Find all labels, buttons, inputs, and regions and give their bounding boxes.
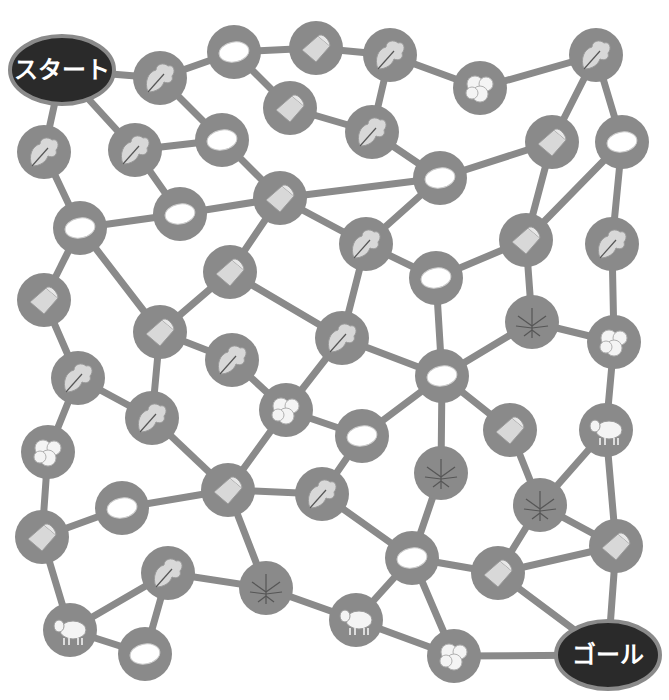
maze-node-leaf[interactable] [363,28,417,82]
maze-node-leaf[interactable] [345,105,399,159]
maze-node-cloth[interactable] [483,403,537,457]
maze-node-cocoon[interactable] [385,531,439,585]
maze-node-leaf[interactable] [51,351,105,405]
maze-node-sheep[interactable] [579,403,633,457]
maze-node-sheep[interactable] [43,603,97,657]
maze-node-hemp[interactable] [414,446,468,500]
maze-node-leaf[interactable] [295,467,349,521]
maze-node-cocoon[interactable] [207,25,261,79]
maze-node-leaf[interactable] [125,391,179,445]
maze-node-cocoon[interactable] [335,409,389,463]
maze-node-cocoon[interactable] [413,151,467,205]
maze-node-cloth[interactable] [589,519,643,573]
maze-node-hemp[interactable] [505,295,559,349]
maze-node-sheep[interactable] [329,593,383,647]
maze-node-cloth[interactable] [263,81,317,135]
maze-node-cloth[interactable] [525,115,579,169]
maze-node-cotton[interactable] [453,61,507,115]
maze-node-cloth[interactable] [471,546,525,600]
maze-node-cloth[interactable] [253,171,307,225]
maze-board: スタート ゴール [0,0,669,700]
maze-node-leaf[interactable] [133,51,187,105]
maze-node-cloth[interactable] [201,463,255,517]
maze-node-cocoon[interactable] [409,251,463,305]
maze-node-cloth[interactable] [15,510,69,564]
maze-node-cocoon[interactable] [153,187,207,241]
maze-node-cocoon[interactable] [53,201,107,255]
maze-node-cotton[interactable] [259,383,313,437]
maze-node-leaf[interactable] [108,123,162,177]
maze-node-cocoon[interactable] [95,481,149,535]
maze-node-cocoon[interactable] [595,115,649,169]
maze-node-leaf[interactable] [205,333,259,387]
maze-node-cocoon[interactable] [195,113,249,167]
maze-node-cocoon[interactable] [118,627,172,681]
maze-node-leaf[interactable] [339,217,393,271]
maze-node-cotton[interactable] [587,315,641,369]
maze-node-cloth[interactable] [203,245,257,299]
maze-node-leaf[interactable] [315,311,369,365]
goal-label: ゴール [572,641,644,669]
start-node[interactable]: スタート [10,36,114,104]
maze-node-hemp[interactable] [239,561,293,615]
start-label: スタート [14,56,110,84]
maze-node-hemp[interactable] [513,478,567,532]
maze-node-cloth[interactable] [17,273,71,327]
maze-node-cotton[interactable] [427,629,481,683]
maze-node-cocoon[interactable] [415,349,469,403]
maze-node-cloth[interactable] [133,305,187,359]
maze-node-leaf[interactable] [17,125,71,179]
goal-node[interactable]: ゴール [556,621,660,689]
maze-node-leaf[interactable] [141,546,195,600]
maze-node-leaf[interactable] [585,217,639,271]
maze-node-cotton[interactable] [21,425,75,479]
maze-node-cloth[interactable] [289,21,343,75]
maze-node-cloth[interactable] [499,213,553,267]
maze-node-leaf[interactable] [569,28,623,82]
